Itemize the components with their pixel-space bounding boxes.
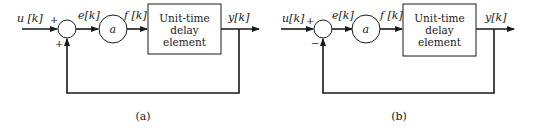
sum-sign-input: + <box>50 14 58 25</box>
gain-output-label: f [k] <box>379 9 404 22</box>
delay-block-line-1: Unit-time <box>159 12 210 24</box>
caption-a: (a) <box>135 110 150 123</box>
sum-sign-feedback: + <box>55 38 63 49</box>
block-diagrams: u [k] + + e[k] a f [k] Unit-time delay e… <box>0 0 534 130</box>
output-label: y[k] <box>484 11 507 24</box>
delay-block-line-2: delay <box>170 24 199 36</box>
summing-junction <box>58 20 76 38</box>
input-label: u[k] <box>282 12 305 25</box>
delay-block-line-2: delay <box>425 24 454 36</box>
delay-block-line-3: element <box>163 36 207 48</box>
sum-sign-input: + <box>306 15 314 26</box>
delay-block-line-3: element <box>418 36 462 48</box>
sum-sign-feedback: − <box>311 38 319 49</box>
gain-label: a <box>363 23 370 36</box>
summing-junction <box>314 20 332 38</box>
error-label: e[k] <box>332 9 354 22</box>
diagram-b: u[k] + − e[k] a f [k] Unit-time delay el… <box>281 4 514 123</box>
gain-label: a <box>110 23 117 36</box>
delay-block-line-1: Unit-time <box>414 12 465 24</box>
input-label: u [k] <box>17 12 44 25</box>
error-label: e[k] <box>78 9 100 22</box>
output-label: y[k] <box>227 11 250 24</box>
caption-b: (b) <box>391 110 407 123</box>
diagram-a: u [k] + + e[k] a f [k] Unit-time delay e… <box>17 4 259 123</box>
gain-output-label: f [k] <box>123 9 148 22</box>
